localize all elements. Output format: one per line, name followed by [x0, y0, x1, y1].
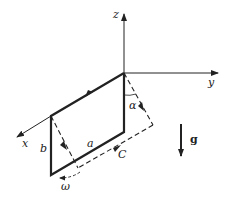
side-b-label: b	[40, 142, 47, 155]
omega-label: ω	[61, 180, 70, 193]
angle-arc	[124, 94, 136, 95]
circuit-c-label: C	[118, 148, 127, 161]
loop-diagram: z y x b a α C ω g	[0, 0, 226, 198]
loop-vertical	[51, 73, 124, 175]
x-axis	[17, 116, 51, 137]
current-arrow-right-icon	[138, 102, 144, 111]
loop-tilted-dashed	[51, 73, 153, 168]
x-axis-label: x	[22, 137, 29, 150]
side-a-label: a	[87, 137, 94, 150]
gravity-label: g	[190, 133, 198, 146]
angle-alpha-label: α	[129, 99, 137, 112]
z-axis-label: z	[112, 8, 119, 21]
omega-arrow	[60, 172, 80, 178]
y-axis-label: y	[207, 76, 215, 89]
